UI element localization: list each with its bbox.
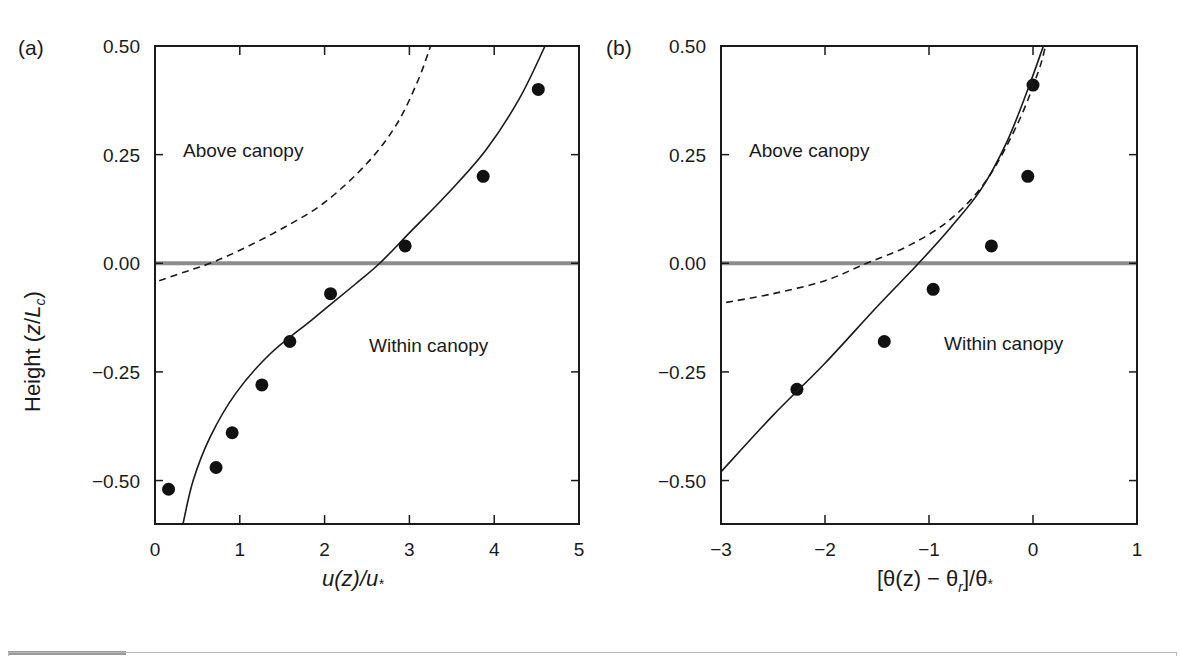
y-tick-label: −0.50	[92, 471, 140, 492]
y-tick-label: 0.50	[103, 36, 140, 57]
data-point	[324, 287, 337, 300]
panel-b: −3−2−1010.500.250.00−0.25−0.50	[658, 36, 1142, 560]
y-tick-label: −0.25	[658, 362, 706, 383]
data-point	[790, 383, 803, 396]
model-solid-curve	[183, 46, 545, 524]
panel-a: 0123450.500.250.00−0.25−0.50	[92, 36, 584, 560]
x-tick-label: −3	[710, 539, 732, 560]
x-tick-label: 2	[319, 539, 330, 560]
y-axis-title: Height (z/Lc)	[20, 291, 48, 412]
data-point	[255, 378, 268, 391]
x-tick-label: 5	[574, 539, 585, 560]
data-point	[878, 335, 891, 348]
y-tick-label: 0.25	[103, 145, 140, 166]
data-point	[985, 239, 998, 252]
x-axis-title-a: u(z)/u*	[322, 566, 384, 592]
data-point	[477, 170, 490, 183]
data-point	[210, 461, 223, 474]
x-tick-label: 0	[1028, 539, 1039, 560]
x-tick-label: 1	[1132, 539, 1143, 560]
y-tick-label: 0.00	[103, 253, 140, 274]
y-tick-label: 0.50	[669, 36, 706, 57]
plot-frame	[155, 46, 579, 524]
y-tick-label: −0.25	[92, 362, 140, 383]
x-tick-label: −2	[814, 539, 836, 560]
x-axis-title-b: [θ(z) − θr]/θ*	[877, 566, 993, 595]
x-tick-label: 1	[235, 539, 246, 560]
data-point	[927, 283, 940, 296]
data-point	[532, 83, 545, 96]
x-tick-label: 3	[404, 539, 415, 560]
footer-rule	[8, 652, 1177, 656]
model-solid-curve	[721, 46, 1043, 472]
above-canopy-label-a: Above canopy	[183, 140, 304, 161]
above-canopy-label-b: Above canopy	[749, 140, 870, 161]
data-point	[226, 426, 239, 439]
theory-dashed-curve	[159, 46, 430, 281]
x-tick-label: −1	[918, 539, 940, 560]
y-tick-label: 0.25	[669, 145, 706, 166]
within-canopy-label-b: Within canopy	[944, 333, 1064, 354]
data-point	[162, 483, 175, 496]
data-point	[1021, 170, 1034, 183]
panel-b-label: (b)	[606, 36, 632, 59]
x-tick-label: 4	[489, 539, 500, 560]
within-canopy-label-a: Within canopy	[369, 335, 489, 356]
y-tick-label: −0.50	[658, 471, 706, 492]
x-tick-label: 0	[150, 539, 161, 560]
y-tick-label: 0.00	[669, 253, 706, 274]
panel-a-label: (a)	[18, 36, 44, 59]
